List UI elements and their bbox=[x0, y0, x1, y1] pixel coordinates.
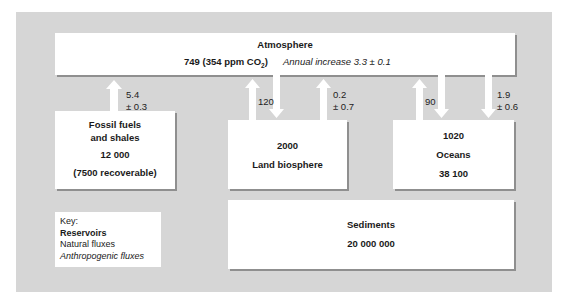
oceans-amount-top: 1020 bbox=[393, 130, 514, 141]
flux-ocean-exchange-label: 90 bbox=[425, 96, 436, 108]
fossil-title-line2: and shales bbox=[55, 132, 175, 143]
key-heading: Key: bbox=[60, 216, 144, 228]
flux-land-exchange-label: 120 bbox=[258, 96, 274, 108]
atmosphere-title: Atmosphere bbox=[55, 39, 515, 50]
fossil-fuels-box: Fossil fuels and shales 12 000 (7500 rec… bbox=[55, 111, 175, 189]
land-title: Land biosphere bbox=[228, 159, 347, 170]
oceans-box: 1020 Oceans 38 100 bbox=[393, 120, 514, 189]
fossil-amount: 12 000 bbox=[55, 149, 175, 160]
key-anthropogenic-fluxes: Anthropogenic fluxes bbox=[60, 251, 144, 263]
fossil-note: (7500 recoverable) bbox=[55, 167, 175, 178]
land-amount: 2000 bbox=[228, 140, 347, 151]
atmosphere-values: 749 (354 ppm CO2) Annual increase 3.3 ± … bbox=[55, 56, 515, 70]
flux-ocean-anthropogenic-label: 1.9± 0.6 bbox=[497, 89, 518, 113]
sediments-amount: 20 000 000 bbox=[228, 238, 514, 249]
key-reservoirs: Reservoirs bbox=[60, 228, 144, 240]
atmosphere-amount: 749 (354 ppm CO2) bbox=[184, 56, 268, 69]
land-biosphere-box: 2000 Land biosphere bbox=[228, 120, 347, 189]
key-natural-fluxes: Natural fluxes bbox=[60, 239, 144, 251]
arrow-down-icon bbox=[434, 75, 449, 118]
atmosphere-box: Atmosphere 749 (354 ppm CO2) Annual incr… bbox=[55, 33, 515, 75]
oceans-amount-bottom: 38 100 bbox=[393, 168, 514, 179]
arrow-down-icon bbox=[481, 75, 496, 118]
arrow-up-icon bbox=[316, 79, 331, 120]
sediments-title: Sediments bbox=[228, 219, 514, 230]
arrow-up-icon bbox=[106, 80, 122, 111]
sediments-box: Sediments 20 000 000 bbox=[228, 200, 514, 269]
key-box: Key: Reservoirs Natural fluxes Anthropog… bbox=[55, 212, 161, 267]
flux-fossil-label: 5.4± 0.3 bbox=[126, 89, 147, 113]
atmosphere-annual-increase: Annual increase 3.3 ± 0.1 bbox=[283, 56, 391, 67]
oceans-title: Oceans bbox=[393, 149, 514, 160]
fossil-title-line1: Fossil fuels bbox=[55, 119, 175, 130]
flux-land-anthropogenic-label: 0.2± 0.7 bbox=[333, 89, 354, 113]
